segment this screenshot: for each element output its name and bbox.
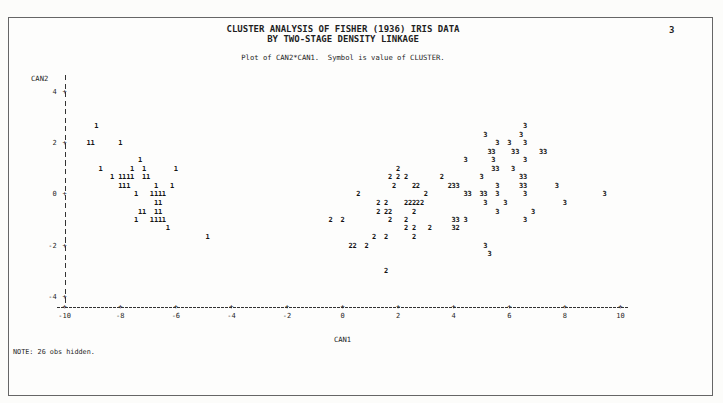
data-point-cluster-2: 2 (404, 216, 408, 223)
y-tick-label: 4 (37, 88, 57, 95)
data-point-cluster-3: 3 (491, 157, 495, 164)
data-point-cluster-2: 2 (376, 199, 380, 206)
data-point-cluster-3: 3 (464, 157, 468, 164)
data-point-cluster-3: 3 (531, 208, 535, 215)
data-point-cluster-2: 2 (388, 174, 392, 181)
data-point-cluster-2: 2 (388, 208, 392, 215)
x-tick-label: 2 (396, 313, 400, 320)
data-point-cluster-3: 3 (511, 165, 515, 172)
data-point-cluster-1: 1 (146, 174, 150, 181)
data-point-cluster-1: 1 (134, 191, 138, 198)
data-point-cluster-3: 3 (519, 131, 523, 138)
data-point-cluster-3: 3 (483, 242, 487, 249)
data-point-cluster-3: 3 (495, 140, 499, 147)
data-point-cluster-3: 3 (452, 225, 456, 232)
data-point-cluster-1: 1 (174, 165, 178, 172)
x-tick-label: 4 (452, 313, 456, 320)
data-point-cluster-2: 2 (412, 225, 416, 232)
data-point-cluster-1: 1 (154, 182, 158, 189)
data-point-cluster-3: 3 (491, 148, 495, 155)
x-tick-mark: + (174, 304, 178, 311)
data-point-cluster-1: 1 (126, 182, 130, 189)
data-point-cluster-2: 2 (412, 208, 416, 215)
x-tick-label: 10 (616, 313, 624, 320)
data-point-cluster-2: 2 (416, 182, 420, 189)
data-point-cluster-3: 3 (483, 131, 487, 138)
data-point-cluster-1: 1 (94, 122, 98, 129)
data-point-cluster-3: 3 (515, 148, 519, 155)
y-tick-mark: + (63, 88, 67, 95)
data-point-cluster-3: 3 (455, 216, 459, 223)
data-point-cluster-3: 3 (523, 182, 527, 189)
data-point-cluster-1: 1 (90, 140, 94, 147)
x-tick-mark: + (63, 304, 67, 311)
data-point-cluster-3: 3 (523, 140, 527, 147)
data-point-cluster-2: 2 (420, 199, 424, 206)
data-point-cluster-3: 3 (464, 216, 468, 223)
data-point-cluster-2: 2 (376, 208, 380, 215)
data-point-cluster-2: 2 (340, 216, 344, 223)
data-point-cluster-2: 2 (384, 199, 388, 206)
x-tick-mark: + (452, 304, 456, 311)
data-point-cluster-1: 1 (142, 208, 146, 215)
data-point-cluster-2: 2 (412, 234, 416, 241)
data-point-cluster-3: 3 (523, 157, 527, 164)
data-point-cluster-3: 3 (455, 182, 459, 189)
data-point-cluster-2: 2 (396, 174, 400, 181)
data-point-cluster-3: 3 (543, 148, 547, 155)
x-tick-label: -4 (227, 313, 235, 320)
x-tick-label: -6 (172, 313, 180, 320)
x-tick-mark: + (285, 304, 289, 311)
data-point-cluster-2: 2 (404, 225, 408, 232)
data-point-cluster-3: 3 (495, 191, 499, 198)
y-tick-mark: + (63, 293, 67, 300)
data-point-cluster-1: 1 (130, 165, 134, 172)
data-point-cluster-1: 1 (142, 165, 146, 172)
data-point-cluster-3: 3 (602, 191, 606, 198)
x-tick-mark: + (229, 304, 233, 311)
x-tick-mark: + (396, 304, 400, 311)
data-point-cluster-2: 2 (372, 234, 376, 241)
data-point-cluster-2: 2 (404, 174, 408, 181)
data-point-cluster-2: 2 (388, 216, 392, 223)
data-point-cluster-2: 2 (396, 165, 400, 172)
data-point-cluster-1: 1 (166, 225, 170, 232)
x-axis-label-row: CAN1 (9, 326, 712, 353)
y-tick-label: 0 (37, 191, 57, 198)
data-point-cluster-3: 3 (555, 182, 559, 189)
y-tick-label: -4 (37, 293, 57, 300)
y-axis-line (65, 75, 66, 303)
y-tick-label: -2 (37, 242, 57, 249)
data-point-cluster-3: 3 (467, 191, 471, 198)
y-tick-mark: + (63, 140, 67, 147)
data-point-cluster-1: 1 (205, 234, 209, 241)
data-point-cluster-2: 2 (440, 174, 444, 181)
data-point-cluster-3: 3 (507, 140, 511, 147)
data-point-cluster-1: 1 (170, 182, 174, 189)
data-point-cluster-1: 1 (162, 216, 166, 223)
data-point-cluster-3: 3 (523, 174, 527, 181)
plot-area: CAN2 CAN1 +4+2+0+-2+-4+-10+-8+-6+-4+-2+0… (9, 18, 712, 395)
data-point-cluster-2: 2 (328, 216, 332, 223)
hidden-obs-note: NOTE: 26 obs hidden. (13, 348, 95, 356)
data-point-cluster-1: 1 (98, 165, 102, 172)
x-tick-label: 6 (507, 313, 511, 320)
data-point-cluster-3: 3 (523, 191, 527, 198)
data-point-cluster-2: 2 (384, 234, 388, 241)
data-point-cluster-1: 1 (138, 157, 142, 164)
y-tick-label: 2 (37, 140, 57, 147)
data-point-cluster-1: 1 (130, 174, 134, 181)
data-point-cluster-3: 3 (479, 174, 483, 181)
data-point-cluster-2: 2 (392, 182, 396, 189)
x-tick-mark: + (340, 304, 344, 311)
data-point-cluster-1: 1 (110, 174, 114, 181)
x-tick-label: 0 (340, 313, 344, 320)
data-point-cluster-3: 3 (487, 251, 491, 258)
x-tick-label: -10 (58, 313, 71, 320)
data-point-cluster-3: 3 (483, 191, 487, 198)
x-axis-label: CAN1 (334, 335, 351, 344)
data-point-cluster-2: 2 (455, 225, 459, 232)
output-page-border: CLUSTER ANALYSIS OF FISHER (1936) IRIS D… (8, 17, 713, 396)
data-point-cluster-1: 1 (158, 199, 162, 206)
data-point-cluster-3: 3 (495, 208, 499, 215)
